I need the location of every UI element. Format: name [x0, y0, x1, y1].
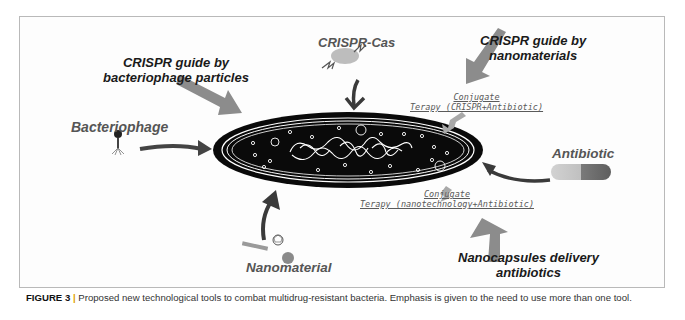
nanotube-icon	[242, 241, 268, 250]
label-line: Nanocapsules delivery	[458, 251, 599, 266]
label-conjugate-nano: Conjugate Terapy (nanotechnology+Antibio…	[360, 189, 534, 209]
crispr-cas-arrow-icon	[346, 80, 364, 108]
label-line: Conjugate	[410, 92, 543, 102]
label-line: CRISPR guide by	[480, 34, 586, 49]
label-line: Terapy (CRISPR+Antibiotic)	[410, 102, 543, 112]
label-line: Terapy (nanotechnology+Antibiotic)	[360, 199, 534, 209]
label-bacteriophage: Bacteriophage	[71, 119, 168, 135]
label-nanomaterial: Nanomaterial	[246, 260, 332, 276]
label-antibiotic: Antibiotic	[552, 146, 614, 162]
label-line: antibiotics	[458, 266, 599, 281]
caption-text: Proposed new technological tools to comb…	[78, 292, 632, 303]
caption-label: FIGURE 3	[26, 292, 70, 303]
label-line: nanomaterials	[480, 49, 586, 64]
label-crispr-phage: CRISPR guide by bacteriophage particles	[103, 56, 249, 86]
bacteriophage-arrow-icon	[140, 140, 212, 156]
caption-separator: |	[73, 292, 76, 303]
nanomaterial-arrow-icon	[262, 190, 280, 240]
label-crispr-nano: CRISPR guide by nanomaterials	[480, 34, 586, 64]
label-nanocapsules: Nanocapsules delivery antibiotics	[458, 251, 599, 281]
bacterium-cell-icon	[213, 112, 483, 188]
label-conjugate-crispr: Conjugate Terapy (CRISPR+Antibiotic)	[410, 92, 543, 112]
label-line: Conjugate	[360, 189, 534, 199]
label-line: bacteriophage particles	[103, 71, 249, 86]
figure-caption: FIGURE 3 | Proposed new technological to…	[26, 292, 632, 303]
label-line: CRISPR guide by	[103, 56, 249, 71]
label-crispr-cas: CRISPR-Cas	[318, 36, 395, 51]
fullerene-icon	[273, 235, 283, 245]
antibiotic-capsule-icon	[551, 164, 611, 180]
antibiotic-arrow-icon	[482, 162, 550, 181]
